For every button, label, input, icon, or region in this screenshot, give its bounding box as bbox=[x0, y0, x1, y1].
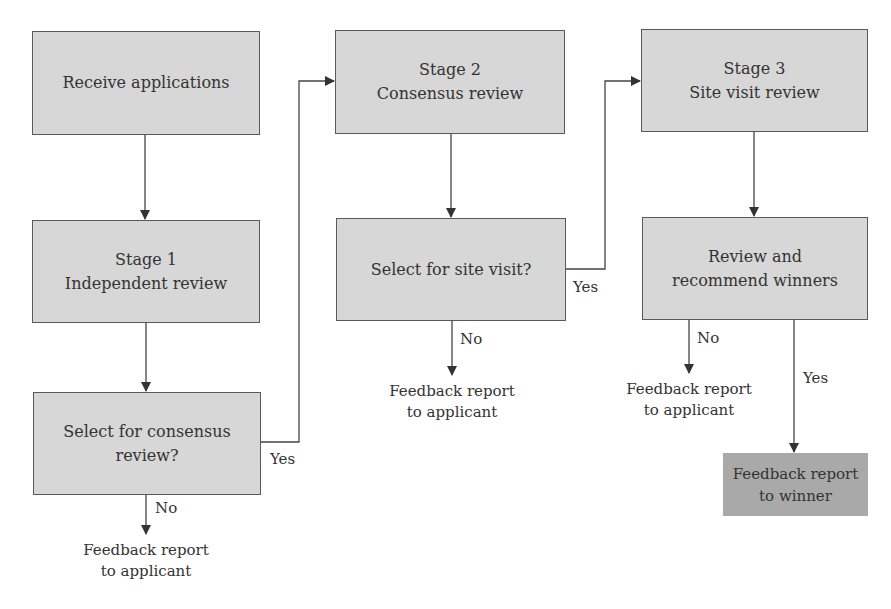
outcome-feedback-to-applicant: Feedback report to applicant bbox=[66, 540, 226, 582]
edge-label-no: No bbox=[460, 330, 482, 348]
node-text: Consensus review bbox=[377, 82, 523, 106]
node-text: Select for site visit? bbox=[371, 258, 532, 282]
outcome-feedback-to-applicant: Feedback report to applicant bbox=[372, 381, 532, 423]
node-feedback-report-to-winner: Feedback report to winner bbox=[723, 453, 868, 516]
node-title: Stage 1 bbox=[115, 248, 177, 272]
node-text: Review and bbox=[708, 245, 802, 269]
outcome-text: Feedback report bbox=[372, 381, 532, 402]
node-text: review? bbox=[115, 444, 178, 468]
edge-label-yes: Yes bbox=[270, 450, 295, 468]
edge-label-no: No bbox=[155, 499, 177, 517]
outcome-text: Feedback report bbox=[66, 540, 226, 561]
outcome-text: to applicant bbox=[609, 400, 769, 421]
node-title: Stage 2 bbox=[419, 58, 481, 82]
node-review-and-recommend-winners: Review and recommend winners bbox=[642, 217, 868, 320]
edge-label-yes: Yes bbox=[803, 369, 828, 387]
outcome-text: to applicant bbox=[372, 402, 532, 423]
node-text: Independent review bbox=[65, 272, 227, 296]
flowchart-canvas: Receive applications Stage 1 Independent… bbox=[0, 0, 891, 609]
edge-label-no: No bbox=[697, 329, 719, 347]
node-text: Site visit review bbox=[689, 81, 820, 105]
node-title: Stage 3 bbox=[724, 57, 786, 81]
node-text: to winner bbox=[759, 485, 832, 507]
outcome-feedback-to-applicant: Feedback report to applicant bbox=[609, 379, 769, 421]
node-stage1-independent-review: Stage 1 Independent review bbox=[32, 220, 260, 323]
node-text: Feedback report bbox=[733, 463, 859, 485]
node-stage3-site-visit-review: Stage 3 Site visit review bbox=[641, 29, 868, 132]
node-stage2-consensus-review: Stage 2 Consensus review bbox=[335, 30, 565, 134]
outcome-text: Feedback report bbox=[609, 379, 769, 400]
decision-select-for-consensus: Select for consensus review? bbox=[33, 392, 261, 495]
node-text: Receive applications bbox=[62, 71, 229, 95]
decision-select-for-site-visit: Select for site visit? bbox=[336, 218, 566, 321]
edge-label-yes: Yes bbox=[573, 278, 598, 296]
node-receive-applications: Receive applications bbox=[32, 31, 260, 135]
node-text: Select for consensus bbox=[63, 420, 230, 444]
node-text: recommend winners bbox=[672, 269, 838, 293]
outcome-text: to applicant bbox=[66, 561, 226, 582]
